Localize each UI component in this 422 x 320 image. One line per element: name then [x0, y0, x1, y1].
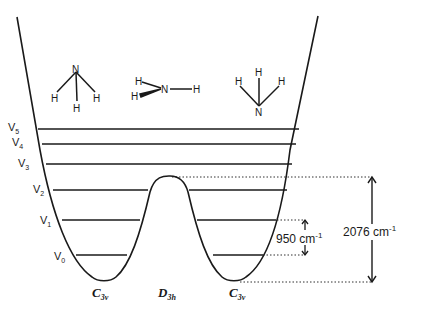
atom-h: H [51, 93, 58, 104]
barrier-label: 2076 cm-1 [343, 224, 397, 239]
splitting-label: 950 cm-1 [276, 231, 323, 246]
reference-lines [172, 177, 372, 282]
symmetry-labels: C3v D3h C3v [92, 285, 246, 302]
atom-h: H [73, 103, 80, 114]
label-v1: V1 [40, 214, 51, 228]
label-v4: V4 [12, 136, 23, 150]
energy-levels [38, 129, 299, 255]
potential-curve [17, 16, 318, 281]
label-v5: V5 [8, 121, 19, 135]
potential-energy-diagram: V5 V4 V3 V2 V1 V0 C3v D3h C3v N H H H H … [0, 0, 422, 320]
label-v3: V3 [18, 157, 29, 171]
atom-h: H [255, 67, 262, 78]
label-v0: V0 [54, 250, 65, 264]
atom-h: H [235, 76, 242, 87]
atom-h: H [93, 93, 100, 104]
atom-h: H [131, 91, 138, 102]
atom-n: N [161, 84, 168, 95]
level-labels: V5 V4 V3 V2 V1 V0 [8, 121, 65, 264]
atom-n: N [72, 64, 79, 75]
molecule-middle: H H N H [131, 76, 200, 102]
symmetry-left: C3v [92, 285, 109, 302]
symmetry-right: C3v [229, 285, 246, 302]
atom-h: H [193, 84, 200, 95]
molecule-left: N H H H [51, 64, 100, 114]
molecule-right: H H H N [235, 67, 285, 118]
atom-h: H [278, 76, 285, 87]
atom-h: H [135, 76, 142, 87]
atom-n: N [255, 107, 262, 118]
label-v2: V2 [33, 183, 44, 197]
symmetry-middle: D3h [157, 285, 176, 302]
